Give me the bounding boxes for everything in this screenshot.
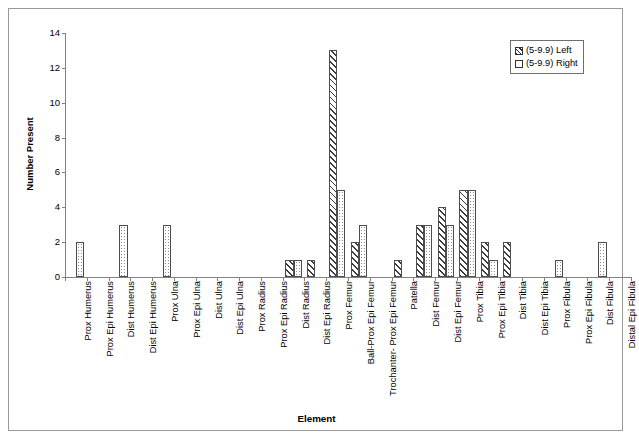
y-tick-label: 0 [55, 272, 60, 281]
bar-slot [609, 33, 631, 277]
bar-right [294, 260, 302, 277]
x-tick-label: Prox Epi Radius [277, 281, 291, 405]
bar-left [351, 242, 359, 277]
x-tick-label: Prox Humerus [81, 281, 95, 405]
bar-left [503, 242, 511, 277]
y-axis-title: Number Present [23, 34, 37, 274]
bar-slot [217, 33, 239, 277]
bar-right [337, 190, 345, 277]
x-tick-label: Prox Ulna [168, 281, 182, 405]
x-tick-label: Dist Epi Tibia [538, 281, 552, 405]
bar-right [359, 225, 367, 277]
x-tick-label: Dist Radius [299, 281, 313, 405]
y-tick-label: 8 [55, 133, 60, 142]
bar-slot [479, 33, 501, 277]
x-axis-title: Element [9, 413, 624, 424]
x-tick-label: Prox Radius [255, 281, 269, 405]
legend-label-right: (5-9.9) Right [526, 57, 578, 70]
x-tick-label: Dist Ulna [212, 281, 226, 405]
bar-left [481, 242, 489, 277]
bar-slot [130, 33, 152, 277]
x-tick-label: Prox Epi Humerus [103, 281, 117, 405]
x-tick-label: Prox Epi Ulna [190, 281, 204, 405]
bar-slot [283, 33, 305, 277]
x-tick-label: Ball-Prox Epi Femur [364, 281, 378, 405]
bar-right [446, 225, 454, 277]
x-axis-tick-labels: Prox HumerusProx Epi HumerusDist Humerus… [65, 281, 631, 409]
bar-slot [370, 33, 392, 277]
bar-right [119, 225, 127, 277]
bar-slot [435, 33, 457, 277]
chart-frame: Number Present 02468101214 Prox HumerusP… [8, 8, 623, 431]
bar-slot [196, 33, 218, 277]
bar-slot [239, 33, 261, 277]
bar-slot [457, 33, 479, 277]
x-tick-label: Trochanter- Prox Epi Femur [386, 281, 400, 405]
bar-left [459, 190, 467, 277]
bar-right [598, 242, 606, 277]
bar-left [394, 260, 402, 277]
legend-item-left: (5-9.9) Left [515, 44, 578, 57]
x-tick-label: Dist Epi Radius [320, 281, 334, 405]
x-tick-label: Prox Femur [342, 281, 356, 405]
bar-left [438, 207, 446, 277]
bar-slot [174, 33, 196, 277]
y-tick-label: 2 [55, 237, 60, 246]
bar-slot [304, 33, 326, 277]
bar-left [307, 260, 315, 277]
bar-slot [392, 33, 414, 277]
bar-left [329, 50, 337, 277]
bar-right [163, 225, 171, 277]
x-tick-label: Distal Epi Fibula [625, 281, 639, 405]
x-tick-label: Prox Fibula [560, 281, 574, 405]
bar-slot [109, 33, 131, 277]
y-axis-title-wrapper: Number Present [23, 34, 37, 274]
y-tick-label: 4 [55, 202, 60, 211]
x-tick-label: Dist Epi Humerus [146, 281, 160, 405]
bar-slot [413, 33, 435, 277]
legend-swatch-left-icon [515, 47, 523, 55]
x-tick-label: Dist Fibula [603, 281, 617, 405]
x-tick-label: Dist Epi Femur [451, 281, 465, 405]
bar-slot [587, 33, 609, 277]
bar-slot [152, 33, 174, 277]
x-tick-label: Prox Epi Fibula [582, 281, 596, 405]
bar-left [285, 260, 293, 277]
bar-right [489, 260, 497, 277]
bar-slot [326, 33, 348, 277]
bar-right [555, 260, 563, 277]
bar-slot [87, 33, 109, 277]
legend-item-right: (5-9.9) Right [515, 57, 578, 70]
bar-left [416, 225, 424, 277]
bar-slot [261, 33, 283, 277]
x-tick-label: Dist Epi Ulna [233, 281, 247, 405]
x-tick-label: Prox Epi Tibia [495, 281, 509, 405]
bar-right [76, 242, 84, 277]
legend-label-left: (5-9.9) Left [526, 44, 571, 57]
y-tick-label: 12 [49, 63, 60, 72]
bar-slot [65, 33, 87, 277]
chart-legend: (5-9.9) Left (5-9.9) Right [510, 40, 584, 74]
y-tick-label: 14 [49, 28, 60, 37]
y-tick-label: 6 [55, 167, 60, 176]
y-tick-label: 10 [49, 98, 60, 107]
x-tick-label: Patella [407, 281, 421, 405]
x-tick-label: Dist Tibia [516, 281, 530, 405]
x-tick-label: Dist Humerus [124, 281, 138, 405]
legend-swatch-right-icon [515, 60, 523, 68]
bar-slot [348, 33, 370, 277]
x-tick-label: Prox Tibia [473, 281, 487, 405]
bar-right [424, 225, 432, 277]
bar-right [468, 190, 476, 277]
x-tick-label: Dist Femur [429, 281, 443, 405]
